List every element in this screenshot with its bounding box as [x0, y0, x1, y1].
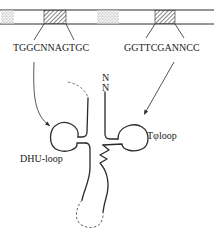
box-b-callout	[146, 24, 184, 38]
arrow-to-t-loop	[144, 62, 174, 115]
box-a-callout	[34, 24, 74, 40]
arrow-to-dhu-loop	[34, 62, 50, 126]
t-loop-label: Tφloop	[147, 131, 177, 141]
box-b-sequence-label: GGTTCGANNCC	[124, 43, 200, 53]
dashed-extension-top	[68, 82, 88, 98]
dna-strip	[0, 10, 214, 24]
n-label-bottom: N	[102, 83, 109, 93]
box-b-hatched	[155, 11, 175, 24]
box-a-hatched	[44, 11, 66, 24]
trna-outline	[51, 92, 149, 212]
trna-diagram	[0, 0, 216, 234]
stipple-region-left	[1, 11, 14, 24]
dhu-loop-label: DHU-loop	[20, 154, 63, 164]
dashed-anticodon-loop	[76, 200, 103, 227]
box-a-sequence-label: TGGCNNAGTGC	[13, 43, 89, 53]
stipple-region-middle	[97, 11, 119, 24]
